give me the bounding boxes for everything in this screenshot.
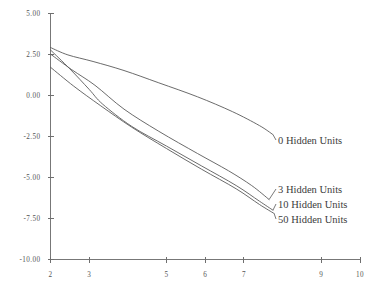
series-line-0-hidden-units <box>51 48 273 135</box>
series-label-10-hidden-units: 10 Hidden Units <box>278 200 347 211</box>
x-tick-label: 3 <box>87 271 91 279</box>
x-tick-label: 9 <box>319 271 323 279</box>
series-label-3-hidden-units: 3 Hidden Units <box>278 185 342 196</box>
series-label-0-hidden-units: 0 Hidden Units <box>278 136 342 147</box>
chart-canvas: 5.002.500.00-2.50-5.00-7.50-10.00 235679… <box>0 0 381 294</box>
series-line-50-hidden-units <box>51 67 275 213</box>
y-tick-label: -5.00 <box>24 174 41 182</box>
y-tick-label: 2.50 <box>26 51 40 59</box>
x-tick-label: 5 <box>165 271 169 279</box>
y-tick-label: -7.50 <box>24 215 41 223</box>
x-tick-label: 10 <box>356 271 364 279</box>
series-label-50-hidden-units: 50 Hidden Units <box>278 215 347 226</box>
x-tick-label: 2 <box>49 271 53 279</box>
y-tick-label: -10.00 <box>20 256 41 264</box>
y-tick-label: 0.00 <box>26 92 40 100</box>
y-axis-tick-labels: 5.002.500.00-2.50-5.00-7.50-10.00 <box>20 10 41 265</box>
line-chart: 5.002.500.00-2.50-5.00-7.50-10.00 235679… <box>0 0 381 294</box>
data-series-lines <box>51 48 275 214</box>
legend-leader-lines <box>269 135 276 219</box>
x-axis-tick-labels: 23567910 <box>49 271 365 279</box>
leader-line <box>273 204 276 210</box>
y-tick-label: 5.00 <box>26 10 40 18</box>
x-tick-label: 6 <box>203 271 207 279</box>
leader-line <box>269 189 276 200</box>
leader-line <box>274 213 276 219</box>
series-line-3-hidden-units <box>51 54 270 199</box>
leader-line <box>273 135 276 140</box>
y-tick-label: -2.50 <box>24 133 41 141</box>
series-line-10-hidden-units <box>51 50 273 210</box>
x-tick-label: 7 <box>242 271 246 279</box>
